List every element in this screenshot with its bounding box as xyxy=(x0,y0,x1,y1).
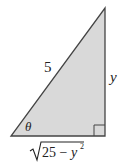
vertical-side-label: y xyxy=(108,69,117,85)
right-triangle xyxy=(11,8,105,136)
hypotenuse-label: 5 xyxy=(44,59,52,75)
base-exponent-label: 2 xyxy=(80,142,84,151)
angle-label: θ xyxy=(25,119,32,134)
base-radicand-label: 25 − y xyxy=(42,145,78,160)
triangle-diagram: 5 y θ 25 − y 2 xyxy=(0,0,123,164)
